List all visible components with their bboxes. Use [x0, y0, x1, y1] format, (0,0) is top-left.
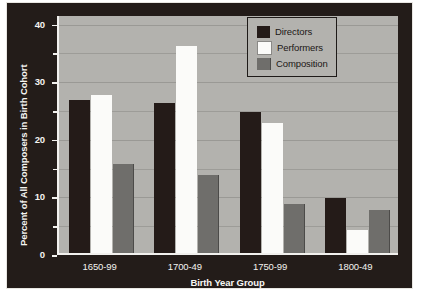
- x-axis-title: Birth Year Group: [57, 277, 398, 288]
- bar-directors-1750-99: [240, 112, 261, 253]
- y-axis-minor-tick: [53, 169, 57, 171]
- bar-composition-1650-99: [113, 164, 134, 253]
- bar-directors-1800-49: [325, 198, 346, 253]
- y-axis-tick: [52, 140, 57, 142]
- bar-chart-figure: Percent of All Composers in Birth Cohort…: [0, 0, 421, 302]
- y-axis-tick: [52, 82, 57, 84]
- gridline: [59, 25, 398, 26]
- bar-performers-1800-49: [347, 230, 368, 253]
- bar-directors-1650-99: [69, 100, 90, 253]
- legend-item: Composition: [257, 56, 336, 71]
- legend-label: Composition: [276, 58, 328, 69]
- bar-composition-1700-49: [198, 175, 219, 253]
- bar-performers-1750-99: [262, 123, 283, 253]
- gridline: [59, 82, 398, 83]
- y-axis-minor-tick: [53, 226, 57, 228]
- bar-performers-1700-49: [176, 46, 197, 253]
- gridline: [59, 53, 398, 54]
- y-axis-tick-label: 30: [19, 76, 45, 87]
- legend-label: Performers: [277, 42, 323, 53]
- legend-swatch-performers: [257, 41, 272, 55]
- bar-composition-1800-49: [369, 210, 390, 253]
- legend-label: Directors: [275, 26, 312, 37]
- bar-composition-1750-99: [284, 204, 305, 253]
- y-axis-tick: [52, 197, 57, 199]
- x-axis-tick-label: 1650-99: [57, 261, 142, 272]
- legend-swatch-directors: [257, 26, 270, 38]
- y-axis-tick-label: 40: [19, 19, 45, 30]
- y-axis-tick-label: 10: [19, 191, 45, 202]
- y-axis-title: Percent of All Composers in Birth Cohort: [18, 65, 29, 246]
- y-axis-tick: [52, 255, 57, 257]
- x-axis-tick-label: 1800-49: [313, 261, 398, 272]
- chart-legend: DirectorsPerformersComposition: [247, 17, 337, 77]
- bar-directors-1700-49: [154, 103, 175, 253]
- legend-item: Performers: [257, 40, 336, 55]
- x-axis-tick-label: 1750-99: [228, 261, 313, 272]
- bar-performers-1650-99: [91, 95, 112, 253]
- y-axis-tick: [52, 25, 57, 27]
- legend-swatch-composition: [257, 58, 271, 70]
- x-axis-tick-label: 1700-49: [142, 261, 227, 272]
- y-axis-minor-tick: [53, 111, 57, 113]
- y-axis-minor-tick: [53, 53, 57, 55]
- plot-area: [57, 16, 398, 255]
- y-axis-tick-label: 0: [19, 249, 45, 260]
- legend-item: Directors: [257, 24, 336, 39]
- y-axis-tick-label: 20: [19, 134, 45, 145]
